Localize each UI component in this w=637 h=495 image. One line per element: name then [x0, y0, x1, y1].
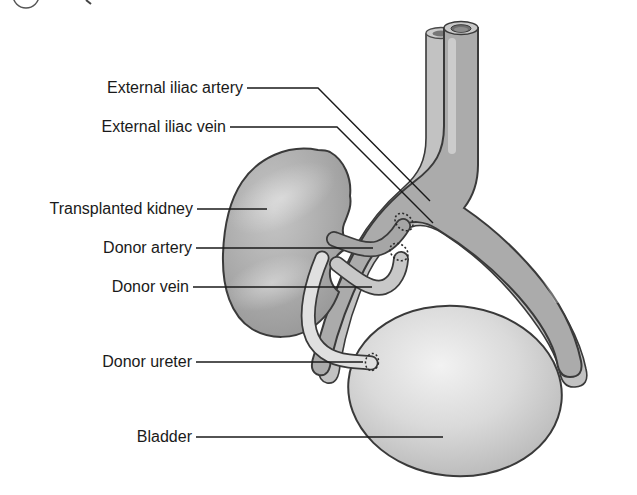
label-donor-artery: Donor artery [103, 238, 192, 258]
label-donor-ureter: Donor ureter [102, 352, 192, 372]
artery-lumen-inner [454, 27, 468, 32]
label-bladder: Bladder [137, 427, 192, 447]
figure-kidney-transplant-diagram: External iliac artery External iliac vei… [0, 0, 637, 495]
figure-badge-circle [13, 0, 39, 8]
label-transplanted-kidney: Transplanted kidney [50, 199, 194, 219]
figure-mark [86, 0, 91, 4]
label-external-iliac-artery: External iliac artery [107, 78, 243, 98]
label-donor-vein: Donor vein [112, 277, 189, 297]
label-external-iliac-vein: External iliac vein [102, 117, 227, 137]
anatomy-artwork [0, 0, 637, 495]
